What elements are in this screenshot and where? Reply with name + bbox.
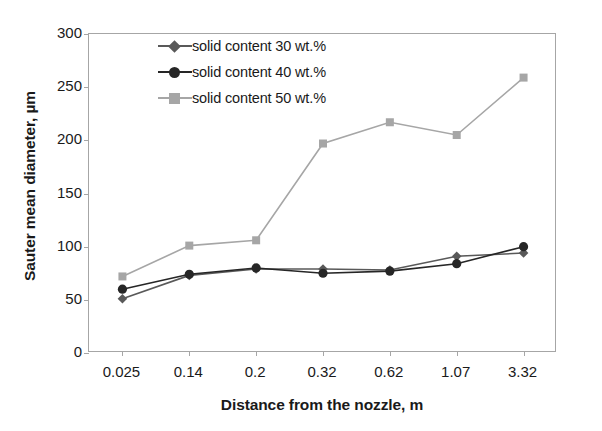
- chart-container: Sauter mean diameter, µm 050100150200250…: [0, 0, 602, 431]
- legend-key: [158, 91, 192, 105]
- legend-key: [158, 39, 192, 53]
- data-point-marker: [452, 259, 461, 268]
- data-point-marker: [318, 269, 327, 278]
- x-tick-label: 0.025: [103, 364, 141, 379]
- y-tick-label: 300: [40, 25, 82, 40]
- x-axis-title: Distance from the nozzle, m: [88, 396, 556, 414]
- data-point-marker: [453, 131, 461, 139]
- x-tick-mark: [122, 351, 123, 356]
- data-point-marker: [386, 118, 394, 126]
- x-tick-label: 3.32: [508, 364, 537, 379]
- legend-marker-square-icon: [169, 93, 180, 104]
- y-tick-mark: [84, 194, 89, 195]
- legend-label: solid content 40 wt.%: [192, 64, 326, 80]
- data-point-marker: [252, 236, 260, 244]
- legend-item: solid content 30 wt.%: [158, 37, 326, 54]
- y-tick-label: 200: [40, 131, 82, 146]
- x-tick-label: 0.14: [174, 364, 203, 379]
- y-tick-mark: [84, 87, 89, 88]
- y-tick-label: 100: [40, 238, 82, 253]
- y-tick-mark: [84, 34, 89, 35]
- x-tick-mark: [524, 351, 525, 356]
- legend-label: solid content 50 wt.%: [192, 90, 326, 106]
- x-tick-label: 0.32: [307, 364, 336, 379]
- x-tick-mark: [189, 351, 190, 356]
- data-point-marker: [385, 267, 394, 276]
- legend-item: solid content 40 wt.%: [158, 63, 326, 80]
- y-tick-mark: [84, 300, 89, 301]
- y-tick-label: 0: [40, 344, 82, 359]
- legend-marker-circle-icon: [169, 67, 180, 78]
- data-point-marker: [519, 242, 528, 251]
- legend-key: [158, 65, 192, 79]
- data-point-marker: [319, 140, 327, 148]
- y-tick-label: 250: [40, 78, 82, 93]
- x-tick-label: 0.2: [245, 364, 266, 379]
- y-tick-mark: [84, 247, 89, 248]
- y-tick-mark: [84, 140, 89, 141]
- legend-item: solid content 50 wt.%: [158, 89, 326, 106]
- data-point-marker: [185, 270, 194, 279]
- x-tick-mark: [323, 351, 324, 356]
- data-point-marker: [185, 242, 193, 250]
- data-point-marker: [118, 294, 128, 304]
- y-tick-mark: [84, 353, 89, 354]
- y-tick-label: 150: [40, 185, 82, 200]
- x-tick-mark: [390, 351, 391, 356]
- data-point-marker: [118, 285, 127, 294]
- data-point-marker: [520, 74, 528, 82]
- chart-legend: solid content 30 wt.%solid content 40 wt…: [152, 31, 334, 110]
- y-tick-label: 50: [40, 291, 82, 306]
- x-axis-tick-labels: 0.0250.140.20.320.621.073.32: [0, 364, 602, 388]
- x-tick-mark: [457, 351, 458, 356]
- x-tick-label: 1.07: [441, 364, 470, 379]
- x-axis-title-text: Distance from the nozzle, m: [221, 396, 423, 413]
- x-tick-label: 0.62: [374, 364, 403, 379]
- legend-label: solid content 30 wt.%: [192, 38, 326, 54]
- legend-marker-diamond-icon: [168, 40, 181, 53]
- x-tick-mark: [256, 351, 257, 356]
- data-point-marker: [118, 272, 126, 280]
- data-point-marker: [252, 263, 261, 272]
